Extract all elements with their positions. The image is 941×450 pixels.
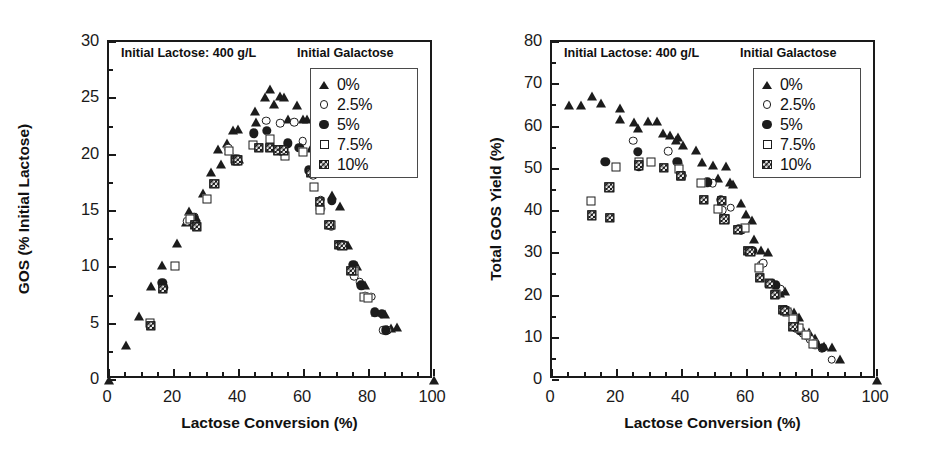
data-point	[615, 103, 625, 112]
data-point	[134, 311, 144, 320]
y-axis-tick-label: 15	[81, 200, 99, 219]
y-axis-minor-tick	[109, 182, 113, 184]
data-point	[697, 157, 707, 166]
x-axis-major-tick	[303, 369, 305, 376]
x-axis-tick-label: 0	[546, 387, 555, 406]
x-axis-minor-tick	[124, 372, 126, 376]
data-point	[677, 171, 686, 180]
filled-circle-marker-icon	[319, 120, 328, 129]
data-point	[780, 287, 790, 296]
data-point	[326, 220, 335, 229]
y-axis-minor-tick	[552, 104, 556, 106]
y-axis-major-tick	[109, 379, 116, 381]
data-point	[172, 238, 182, 247]
legend-item-5[interactable]: 5%	[311, 115, 417, 134]
open-circle-marker-icon	[320, 100, 329, 109]
y-axis-minor-tick	[552, 231, 556, 233]
x-axis-minor-tick	[336, 372, 338, 376]
data-point	[699, 195, 708, 204]
data-point	[674, 164, 683, 173]
data-point	[652, 117, 662, 126]
y-axis-major-tick	[109, 210, 116, 212]
x-axis-tick-label: 60	[293, 387, 311, 406]
legend-item-10[interactable]: 10%	[311, 155, 417, 174]
legend-item-7.5[interactable]: 7.5%	[311, 135, 417, 154]
data-point	[186, 214, 195, 223]
data-point	[334, 240, 343, 249]
y-axis-major-tick	[552, 295, 559, 297]
data-point	[676, 171, 685, 180]
y-axis-tick-label: 80	[524, 31, 542, 50]
x-axis-minor-tick	[401, 372, 403, 376]
data-point	[810, 333, 820, 342]
y-axis-tick-label: 30	[81, 31, 99, 50]
x-axis-minor-tick	[860, 372, 862, 376]
data-point	[158, 284, 167, 293]
data-point	[612, 163, 621, 172]
data-point	[192, 222, 201, 231]
data-point	[203, 194, 212, 203]
data-point	[370, 308, 379, 317]
data-point	[776, 284, 785, 293]
data-point	[791, 324, 800, 333]
x-axis-tick-label: 40	[228, 387, 246, 406]
data-point	[251, 117, 261, 126]
data-point	[224, 146, 234, 155]
y-axis-major-tick	[552, 252, 559, 254]
data-point	[741, 209, 751, 218]
legend-label: 0%	[337, 77, 360, 93]
data-point	[673, 132, 683, 141]
data-point	[260, 93, 270, 102]
x-axis-minor-tick	[222, 372, 224, 376]
data-point	[780, 306, 789, 315]
data-point	[676, 171, 685, 180]
data-point	[349, 260, 358, 269]
legend-item-2.5[interactable]: 2.5%	[754, 95, 860, 114]
y-axis-tick-label: 10	[524, 326, 542, 345]
legend-item-0[interactable]: 0%	[754, 75, 860, 94]
y-axis-tick-label: 70	[524, 73, 542, 92]
filled-triangle-marker-icon	[319, 81, 329, 89]
data-point	[380, 309, 390, 318]
y-axis-minor-tick	[109, 238, 113, 240]
data-point	[671, 136, 681, 145]
data-point	[339, 241, 348, 250]
x-axis-minor-tick	[352, 372, 354, 376]
data-point	[799, 329, 808, 338]
data-point	[587, 211, 596, 220]
data-point	[746, 247, 755, 256]
data-point	[269, 99, 279, 108]
x-axis-minor-tick	[649, 372, 651, 376]
legend-item-7.5[interactable]: 7.5%	[754, 135, 860, 154]
x-axis-minor-tick	[254, 372, 256, 376]
data-point	[804, 327, 814, 336]
data-point	[232, 155, 241, 164]
data-point	[146, 282, 156, 291]
data-point	[605, 213, 614, 222]
data-point	[564, 101, 574, 110]
data-point	[635, 157, 644, 166]
filled-triangle-marker-icon	[762, 81, 772, 89]
data-point	[703, 178, 712, 187]
data-point	[788, 315, 797, 324]
data-point	[315, 197, 324, 206]
x-axis-minor-tick	[384, 372, 386, 376]
x-axis-major-tick	[681, 369, 683, 376]
data-point	[191, 212, 201, 221]
data-point	[765, 278, 774, 287]
data-point	[778, 305, 787, 314]
data-point	[273, 145, 282, 154]
data-point	[643, 117, 653, 126]
data-point	[716, 195, 725, 204]
data-point	[381, 326, 390, 335]
legend-item-5[interactable]: 5%	[754, 115, 860, 134]
legend-item-2.5[interactable]: 2.5%	[311, 95, 417, 114]
data-point	[228, 125, 238, 134]
legend-item-10[interactable]: 10%	[754, 155, 860, 174]
data-point	[587, 92, 597, 101]
legend-item-0[interactable]: 0%	[311, 75, 417, 94]
x-axis-minor-tick	[417, 372, 419, 376]
data-point	[283, 139, 292, 148]
data-point	[678, 171, 687, 180]
data-point	[327, 196, 336, 205]
